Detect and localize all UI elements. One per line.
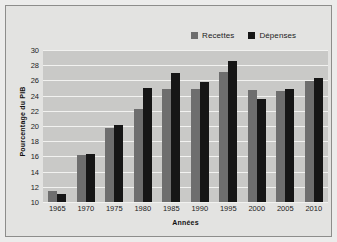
gridline	[43, 202, 328, 203]
bar-dpenses-2010[interactable]	[314, 78, 323, 202]
bar-dpenses-1995[interactable]	[228, 61, 237, 202]
bar-groups	[43, 50, 328, 202]
x-axis-tick-label: 1980	[129, 204, 158, 213]
y-axis-tick-label: 28	[6, 61, 39, 70]
bar-group	[100, 50, 129, 202]
x-axis-tick-label: 2000	[243, 204, 272, 213]
bar-recettes-2000[interactable]	[248, 90, 257, 202]
bar-dpenses-1965[interactable]	[57, 194, 66, 202]
bar-dpenses-1975[interactable]	[114, 125, 123, 202]
bar-recettes-1975[interactable]	[105, 128, 114, 202]
plot-area	[43, 50, 328, 202]
legend-swatch-icon	[248, 32, 255, 39]
y-axis-tick-label: 12	[6, 182, 39, 191]
x-axis-tick-label: 1970	[72, 204, 101, 213]
bar-dpenses-1990[interactable]	[200, 82, 209, 202]
bar-dpenses-2005[interactable]	[285, 89, 294, 202]
x-axis-ticks: 1965197019751980198519901995200020052010	[43, 204, 328, 213]
bar-recettes-1970[interactable]	[77, 155, 86, 202]
bar-recettes-1995[interactable]	[219, 72, 228, 202]
legend-label: Recettes	[202, 31, 234, 40]
y-axis-tick-label: 10	[6, 198, 39, 207]
bar-dpenses-1970[interactable]	[86, 154, 95, 202]
bar-group	[243, 50, 272, 202]
y-axis-tick-label: 20	[6, 122, 39, 131]
bar-dpenses-1985[interactable]	[171, 73, 180, 202]
legend-entry[interactable]: Recettes	[191, 31, 234, 40]
bar-recettes-1985[interactable]	[162, 89, 171, 202]
x-axis-tick-label: 1995	[214, 204, 243, 213]
y-axis-tick-label: 24	[6, 91, 39, 100]
y-axis-tick-label: 30	[6, 46, 39, 55]
x-axis-tick-label: 1990	[186, 204, 215, 213]
chart-figure: RecettesDépenses Pourcentage du PIB 1012…	[0, 0, 337, 242]
bar-group	[129, 50, 158, 202]
x-axis-tick-label: 1985	[157, 204, 186, 213]
x-axis-tick-label: 2005	[271, 204, 300, 213]
legend-entry[interactable]: Dépenses	[248, 31, 296, 40]
x-axis-tick-label: 1975	[100, 204, 129, 213]
legend-label: Dépenses	[259, 31, 296, 40]
bar-recettes-2010[interactable]	[305, 81, 314, 202]
bar-recettes-1980[interactable]	[134, 109, 143, 202]
chart-frame: RecettesDépenses Pourcentage du PIB 1012…	[5, 5, 332, 237]
y-axis-tick-label: 26	[6, 76, 39, 85]
bar-group	[300, 50, 329, 202]
bar-dpenses-2000[interactable]	[257, 99, 266, 202]
bar-dpenses-1980[interactable]	[143, 88, 152, 202]
legend-swatch-icon	[191, 32, 198, 39]
x-axis-title: Années	[43, 219, 328, 226]
bar-group	[43, 50, 72, 202]
y-axis-tick-label: 14	[6, 167, 39, 176]
bar-recettes-1990[interactable]	[191, 89, 200, 202]
bar-group	[271, 50, 300, 202]
bar-group	[186, 50, 215, 202]
chart-legend: RecettesDépenses	[191, 28, 296, 42]
bar-recettes-2005[interactable]	[276, 91, 285, 202]
y-axis-tick-label: 16	[6, 152, 39, 161]
y-axis-tick-label: 22	[6, 106, 39, 115]
x-axis-tick-label: 2010	[300, 204, 329, 213]
bar-group	[157, 50, 186, 202]
bar-group	[214, 50, 243, 202]
bar-recettes-1965[interactable]	[48, 191, 57, 202]
bar-group	[72, 50, 101, 202]
y-axis-tick-label: 18	[6, 137, 39, 146]
x-axis-tick-label: 1965	[43, 204, 72, 213]
